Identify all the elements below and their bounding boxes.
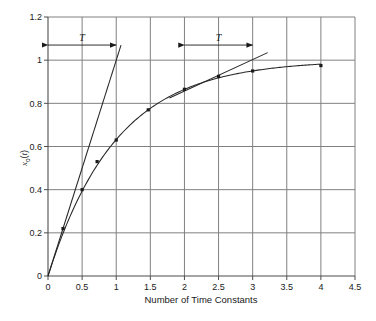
data-point-marker [319,64,322,67]
data-point-marker [115,138,118,141]
data-point-marker [147,108,150,111]
data-point-marker [217,75,220,78]
y-axis-title: xo(t) [19,150,31,167]
x-axis-title: Number of Time Constants [145,294,258,305]
x-tick-label: 1 [114,282,119,292]
data-point-marker [61,227,64,230]
chart-canvas: 00.20.40.60.811.2 00.511.522.533.544.5 T… [0,0,376,321]
x-tick-label: 1.5 [144,282,157,292]
x-tick-label: 3.5 [281,282,294,292]
y-tick-label: 0.2 [29,228,42,238]
x-tick-label: 4.5 [349,282,362,292]
y-axis-title-paren-close: ) [19,150,29,153]
svg-text:xo(t): xo(t) [19,150,31,167]
x-tick-label: 3 [250,282,255,292]
y-tick-label: 0.8 [29,99,42,109]
y-tick-label: 0.6 [29,142,42,152]
y-tick-label: 0 [37,271,42,281]
data-point-marker [96,160,99,163]
data-point-marker [81,188,84,191]
data-point-marker [251,69,254,72]
x-tick-label: 4 [318,282,323,292]
chart-figure: 00.20.40.60.811.2 00.511.522.533.544.5 T… [0,0,376,321]
x-tick-label: 2.5 [212,282,225,292]
chart-background [0,0,376,321]
x-tick-label: 0.5 [76,282,89,292]
y-tick-label: 0.4 [29,185,42,195]
y-tick-label: 1 [37,55,42,65]
x-tick-label: 2 [182,282,187,292]
data-point-marker [183,88,186,91]
x-tick-label: 0 [45,282,50,292]
y-tick-label: 1.2 [29,12,42,22]
